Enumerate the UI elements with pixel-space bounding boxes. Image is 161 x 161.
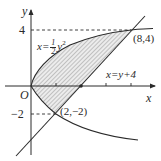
parabola-eq-fraction: 12 xyxy=(50,39,56,56)
parabola-eq-exponent: 2 xyxy=(62,39,66,47)
math-diagram: y x O 4 −2 x=12y2 x=y+4 (8,4) (2,−2) xyxy=(0,0,161,161)
y-tick-label-neg2: −2 xyxy=(11,108,24,120)
point-label-8-4: (8,4) xyxy=(133,33,154,44)
parabola-equation-label: x=12y2 xyxy=(37,39,66,56)
x-axis-label: x xyxy=(146,92,151,104)
y-tick-label-4: 4 xyxy=(19,24,25,36)
parabola-eq-prefix: x= xyxy=(37,40,49,52)
y-axis-label: y xyxy=(22,5,27,17)
point-4-0 xyxy=(79,84,83,88)
origin-label: O xyxy=(20,89,29,101)
line-equation-label: x=y+4 xyxy=(106,69,136,80)
parabola-eq-frac-den: 2 xyxy=(50,48,56,56)
point-label-2-neg2: (2,−2) xyxy=(60,106,87,117)
